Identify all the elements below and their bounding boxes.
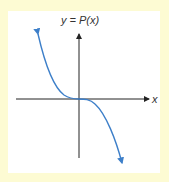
y-axis-label: y = P(x) [60,14,100,26]
x-axis-label: x [151,93,158,105]
polynomial-graph: y = P(x) x [0,0,169,182]
